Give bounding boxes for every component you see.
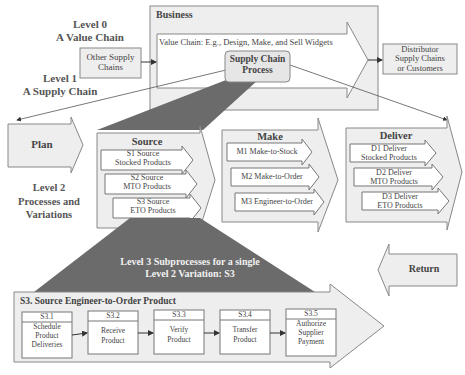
step-s3-4: S3.4 Transfer Product bbox=[220, 310, 270, 344]
make-title: Make bbox=[222, 131, 318, 143]
supply-chain-process-label: Supply Chain Process bbox=[225, 54, 290, 76]
business-title: Business bbox=[156, 9, 193, 21]
return-label: Return bbox=[392, 263, 456, 275]
level2-label: Level 2 Processes and Variations bbox=[6, 181, 92, 222]
step-s3-5: S3.5 Authorize Supplier Payment bbox=[286, 309, 336, 346]
deliver-title: Deliver bbox=[346, 130, 446, 142]
level3-title: S3. Source Engineer-to-Order Product bbox=[20, 296, 176, 307]
level1-label: Level 1 A Supply Chain bbox=[10, 72, 110, 97]
plan-label: Plan bbox=[8, 138, 76, 151]
source-title: Source bbox=[97, 136, 197, 148]
value-chain-label: Value Chain: E.g., Design, Make, and Sel… bbox=[159, 38, 333, 48]
distributor-label: Distributor Supply Chains or Customers bbox=[383, 45, 457, 73]
step-s3-2: S3.2 Receive Product bbox=[88, 311, 138, 345]
deliver-d3-label: D3 Deliver ETO Products bbox=[360, 193, 440, 211]
source-s2-label: S2 Source MTO Products bbox=[105, 174, 189, 192]
other-supply-chains-label: Other Supply Chains bbox=[80, 52, 141, 73]
step-s3-3: S3.3 Verify Product bbox=[154, 310, 204, 344]
make-m1-label: M1 Make-to-Stock bbox=[227, 147, 307, 156]
make-m2-label: M2 Make-to-Order bbox=[231, 172, 313, 181]
make-m3-label: M3 Engineer-to-Order bbox=[233, 197, 321, 206]
source-s3-label: S3 Source ETO Products bbox=[113, 198, 193, 216]
level3-funnel-label: Level 3 Subprocesses for a single Level … bbox=[80, 256, 300, 279]
step-s3-1: S3.1 Schedule Product Deliveries bbox=[22, 312, 72, 349]
level3-funnel bbox=[34, 218, 315, 292]
deliver-d1-label: D1 Deliver Stocked Products bbox=[350, 145, 428, 163]
deliver-d2-label: D2 Deliver MTO Products bbox=[354, 169, 434, 187]
level0-label: Level 0 A Value Chain bbox=[40, 18, 140, 43]
source-s1-label: S1 Source Stocked Products bbox=[101, 150, 185, 168]
